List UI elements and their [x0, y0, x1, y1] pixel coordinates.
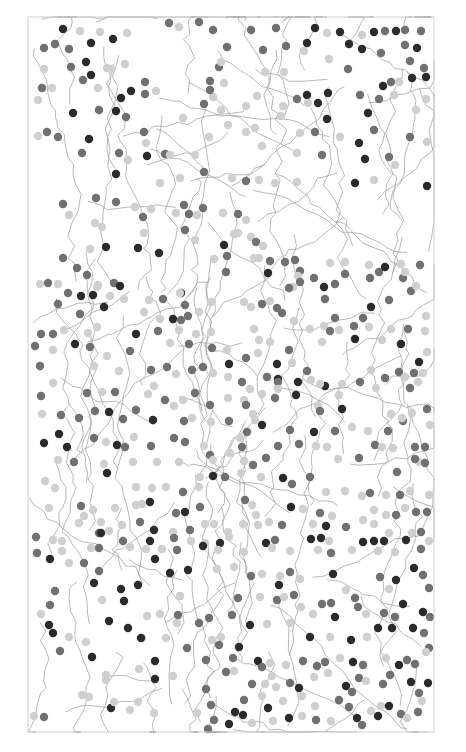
dot	[423, 348, 431, 356]
dot	[36, 280, 44, 288]
dot	[117, 585, 125, 593]
dot	[102, 676, 110, 684]
dot	[40, 713, 48, 721]
dot	[89, 291, 97, 299]
dot	[391, 613, 399, 621]
dot	[30, 712, 38, 720]
dot	[121, 60, 129, 68]
dot	[311, 128, 319, 136]
dot	[413, 44, 421, 52]
dot	[377, 49, 385, 57]
dot	[344, 65, 352, 73]
dot	[228, 174, 236, 182]
dot	[222, 668, 230, 676]
dot	[296, 575, 304, 583]
dot	[263, 620, 271, 628]
dot	[323, 29, 331, 37]
dot	[389, 444, 397, 452]
dot	[321, 658, 329, 666]
dot	[238, 378, 246, 386]
dot	[356, 91, 364, 99]
dot	[224, 121, 232, 129]
dot	[408, 74, 416, 82]
dot	[38, 84, 46, 92]
dot	[200, 168, 208, 176]
dot	[384, 427, 392, 435]
dot	[207, 418, 215, 426]
dot	[382, 511, 390, 519]
dot	[119, 415, 127, 423]
dot	[223, 43, 231, 51]
dot	[370, 28, 378, 36]
dot	[86, 245, 94, 253]
dot	[423, 508, 431, 516]
dot	[162, 634, 170, 642]
dot	[32, 533, 40, 541]
dot	[90, 434, 98, 442]
dot	[120, 597, 128, 605]
dot	[73, 264, 81, 272]
dot	[181, 226, 189, 234]
dot	[264, 269, 272, 277]
dot	[126, 543, 134, 551]
dot	[404, 325, 412, 333]
dot	[193, 709, 201, 717]
dot	[63, 443, 71, 451]
dot	[37, 330, 45, 338]
dot	[64, 289, 72, 297]
dot	[137, 634, 145, 642]
dot	[138, 500, 146, 508]
dot	[288, 480, 296, 488]
dot	[59, 25, 67, 33]
dot	[359, 538, 367, 546]
dot	[399, 600, 407, 608]
dot	[240, 298, 248, 306]
dot	[51, 484, 59, 492]
dot	[45, 504, 53, 512]
dot	[115, 367, 123, 375]
dot	[59, 254, 67, 262]
dot	[381, 27, 389, 35]
dot	[300, 47, 308, 55]
dot	[57, 411, 65, 419]
dot	[127, 87, 135, 95]
dot	[126, 706, 134, 714]
dot	[381, 263, 389, 271]
dot	[96, 28, 104, 36]
dot	[422, 312, 430, 320]
dot	[266, 338, 274, 346]
dot	[322, 488, 330, 496]
dot	[386, 671, 394, 679]
dot	[246, 621, 254, 629]
dot	[40, 439, 48, 447]
dot	[420, 629, 428, 637]
dot	[271, 536, 279, 544]
dot	[37, 392, 45, 400]
dot	[290, 591, 298, 599]
dot	[165, 19, 173, 27]
dot	[176, 289, 184, 297]
dot	[280, 593, 288, 601]
dot	[391, 161, 399, 169]
dot	[381, 374, 389, 382]
dot	[131, 203, 139, 211]
dot	[415, 358, 423, 366]
dot	[409, 624, 417, 632]
dot	[249, 461, 257, 469]
dot	[41, 477, 49, 485]
dot	[82, 58, 90, 66]
dot	[83, 389, 91, 397]
dot	[303, 39, 311, 47]
dot	[132, 330, 140, 338]
dot	[406, 57, 414, 65]
dot	[273, 304, 281, 312]
dot	[210, 716, 218, 724]
dot	[144, 390, 152, 398]
dot	[417, 27, 425, 35]
dot	[205, 133, 213, 141]
dot	[387, 78, 395, 86]
dot	[206, 401, 214, 409]
dot	[85, 693, 93, 701]
dot	[54, 133, 62, 141]
dot	[355, 454, 363, 462]
